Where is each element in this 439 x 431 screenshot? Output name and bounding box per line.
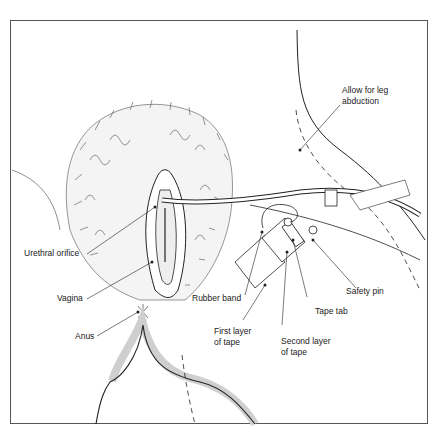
label-vagina: Vagina	[57, 293, 83, 304]
label-safety-pin: Safety pin	[346, 286, 384, 297]
label-first-layer-of-tape: First layer of tape	[214, 326, 251, 348]
label-anus: Anus	[75, 331, 94, 342]
catheter-taping-illustration	[0, 0, 439, 431]
label-tape-tab: Tape tab	[315, 306, 348, 317]
safety-pin-icon	[309, 226, 317, 234]
label-rubber-band: Rubber band	[192, 293, 241, 304]
label-second-layer-of-tape: Second layer of tape	[281, 336, 331, 358]
label-urethral-orifice: Urethral orifice	[24, 248, 79, 259]
label-allow-leg-abduction: Allow for leg abduction	[342, 85, 388, 107]
